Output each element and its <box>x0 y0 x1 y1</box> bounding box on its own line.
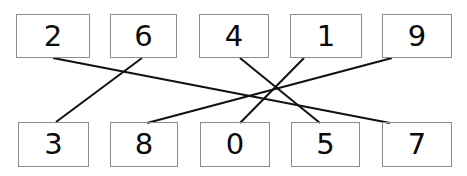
bottom-box-8[interactable]: 8 <box>110 122 178 167</box>
top-label-6: 6 <box>134 22 152 51</box>
top-box-1[interactable]: 1 <box>290 14 362 58</box>
top-label-9: 9 <box>408 22 426 51</box>
top-label-4: 4 <box>225 22 243 51</box>
bottom-box-5[interactable]: 5 <box>291 122 360 167</box>
bottom-label-3: 3 <box>44 130 62 159</box>
bottom-label-5: 5 <box>316 130 334 159</box>
bottom-box-7[interactable]: 7 <box>382 122 452 167</box>
top-label-2: 2 <box>44 22 62 51</box>
top-box-2[interactable]: 2 <box>16 14 90 58</box>
bottom-label-7: 7 <box>408 130 426 159</box>
top-box-9[interactable]: 9 <box>382 14 452 58</box>
top-box-6[interactable]: 6 <box>110 14 177 58</box>
connector-line-2-to-7 <box>53 58 390 123</box>
top-label-1: 1 <box>317 22 335 51</box>
bottom-label-8: 8 <box>135 130 153 159</box>
bottom-label-0: 0 <box>226 130 244 159</box>
matching-diagram: 26419 38057 <box>0 0 467 176</box>
top-box-4[interactable]: 4 <box>199 14 269 58</box>
bottom-box-0[interactable]: 0 <box>200 122 270 167</box>
connector-line-9-to-8 <box>147 58 392 123</box>
connector-line-4-to-5 <box>240 58 320 123</box>
bottom-box-3[interactable]: 3 <box>18 122 89 167</box>
